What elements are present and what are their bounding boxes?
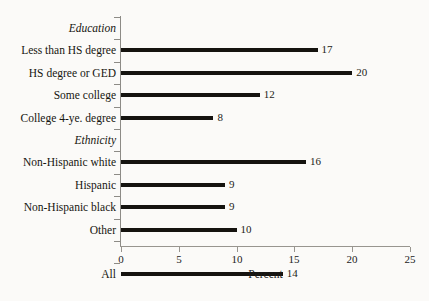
category-label: College 4-ye. degree: [21, 112, 116, 125]
bar: [121, 48, 318, 52]
bar-value-label: 8: [217, 111, 223, 123]
x-axis-tick-label: 20: [337, 252, 367, 266]
x-axis-tick-label: 10: [222, 252, 252, 266]
group-header-label: Ethnicity: [74, 134, 116, 147]
x-axis-tick-label: 0: [106, 252, 136, 266]
category-label: Some college: [54, 89, 116, 102]
bar: [121, 93, 260, 97]
y-axis-tick: [114, 174, 120, 175]
category-label: Non-Hispanic white: [23, 156, 116, 169]
category-label: Less than HS degree: [21, 44, 116, 57]
y-axis-tick: [114, 39, 120, 40]
x-axis-title: Percent: [121, 268, 410, 280]
y-axis-tick: [114, 107, 120, 108]
bar: [121, 71, 352, 75]
y-axis-tick: [114, 84, 120, 85]
category-label: HS degree or GED: [29, 67, 116, 80]
bar: [121, 205, 225, 209]
bar-value-label: 9: [229, 178, 235, 190]
category-label: All: [101, 268, 116, 281]
group-header-label: Education: [69, 22, 116, 35]
x-axis-tick-label: 25: [395, 252, 425, 266]
category-label: Non-Hispanic black: [24, 201, 116, 214]
x-axis-tick-label: 15: [279, 252, 309, 266]
horizontal-bar-chart: EducationLess than HS degreeHS degree or…: [0, 0, 429, 301]
y-axis-tick: [114, 62, 120, 63]
y-axis-tick: [114, 129, 120, 130]
bar-value-label: 16: [310, 155, 321, 167]
y-axis-tick: [114, 196, 120, 197]
bar-value-label: 9: [229, 200, 235, 212]
y-axis-tick: [114, 219, 120, 220]
category-label: Hispanic: [75, 179, 116, 192]
bar: [121, 183, 225, 187]
bar-value-label: 17: [322, 43, 333, 55]
y-axis-tick: [114, 241, 120, 242]
x-axis-tick-label: 5: [164, 252, 194, 266]
category-label: Other: [90, 224, 116, 237]
y-axis-tick: [114, 17, 120, 18]
bar-value-label: 20: [356, 66, 367, 78]
bar: [121, 116, 213, 120]
bar: [121, 160, 306, 164]
y-axis-tick: [114, 151, 120, 152]
bar: [121, 228, 237, 232]
x-axis-line: [120, 246, 410, 247]
bar-value-label: 12: [264, 88, 275, 100]
bar-value-label: 10: [241, 223, 252, 235]
